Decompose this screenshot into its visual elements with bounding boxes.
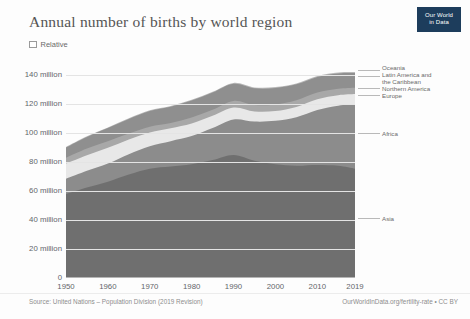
series-label-line: Europe xyxy=(382,92,402,99)
series-label-line: Africa xyxy=(382,130,398,137)
stacked-area-series xyxy=(66,68,355,278)
x-axis-tick-label: 1980 xyxy=(183,282,200,291)
y-axis-tick-label: 80 million xyxy=(4,157,62,166)
series-label-line: Northern America xyxy=(382,85,430,92)
series-label-oceania[interactable]: Oceania xyxy=(382,64,405,71)
x-axis-tick-label: 1950 xyxy=(57,282,74,291)
y-axis-tick-label: 140 million xyxy=(4,70,62,79)
leader-line xyxy=(358,70,380,71)
leader-line xyxy=(358,218,380,219)
y-axis-tick-label: 0 xyxy=(4,273,62,282)
plot-area xyxy=(66,68,355,278)
y-axis-tick-label: 100 million xyxy=(4,128,62,137)
x-axis-baseline xyxy=(66,277,355,278)
x-axis-tick-label: 1960 xyxy=(99,282,116,291)
leader-line xyxy=(358,95,380,96)
x-axis-tick-label: 2000 xyxy=(267,282,284,291)
footer-source: Source: United Nations – Population Divi… xyxy=(29,298,203,305)
series-label-africa[interactable]: Africa xyxy=(382,130,398,137)
series-label-line: Oceania xyxy=(382,64,405,71)
series-label-line: Asia xyxy=(382,215,394,222)
x-axis-tick-label: 1970 xyxy=(141,282,158,291)
y-axis-tick-label: 60 million xyxy=(4,186,62,195)
y-axis-tick-label: 120 million xyxy=(4,99,62,108)
x-axis-tick-label: 2010 xyxy=(309,282,326,291)
series-label-europe[interactable]: Europe xyxy=(382,92,402,99)
gridline xyxy=(66,220,355,221)
series-label-line: Latin America and xyxy=(382,71,432,78)
gridline xyxy=(66,133,355,134)
footer-divider xyxy=(0,293,470,294)
leader-line xyxy=(358,76,380,77)
x-axis-tick-label: 1990 xyxy=(225,282,242,291)
y-axis-tick-label: 20 million xyxy=(4,244,62,253)
series-label-latin-america-and-the-caribbean[interactable]: Latin America andthe Caribbean xyxy=(382,71,432,85)
gridline xyxy=(66,162,355,163)
leader-line xyxy=(358,133,380,134)
series-label-northern-america[interactable]: Northern America xyxy=(382,85,430,92)
y-axis-tick-label: 40 million xyxy=(4,215,62,224)
gridline xyxy=(66,249,355,250)
gridline xyxy=(66,191,355,192)
gridline xyxy=(66,104,355,105)
series-label-line: the Caribbean xyxy=(382,78,432,85)
series-label-asia[interactable]: Asia xyxy=(382,215,394,222)
leader-line xyxy=(358,88,380,89)
footer-attribution[interactable]: OurWorldInData.org/fertility-rate • CC B… xyxy=(342,298,458,305)
x-axis-tick-label: 2019 xyxy=(346,282,363,291)
gridline xyxy=(66,75,355,76)
chart-card: Annual number of births by world region … xyxy=(0,0,470,319)
